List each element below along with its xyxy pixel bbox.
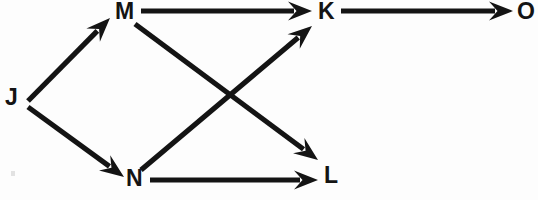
- node-label-k: K: [318, 0, 335, 23]
- edge-j-to-m-shaft: [28, 31, 97, 101]
- graph-edges: [0, 0, 538, 200]
- edge-j-to-n-shaft: [28, 107, 109, 166]
- node-label-l: L: [324, 164, 338, 187]
- edge-m-to-l-shaft: [135, 24, 304, 149]
- node-label-j: J: [5, 86, 18, 109]
- edge-n-to-k-shaft: [141, 38, 298, 170]
- diagram-canvas: J M N K L O: [0, 0, 538, 200]
- node-label-n: N: [126, 167, 143, 190]
- node-label-o: O: [517, 0, 535, 23]
- scan-artifact-speck: [11, 171, 15, 176]
- node-label-m: M: [115, 0, 134, 23]
